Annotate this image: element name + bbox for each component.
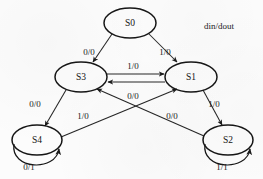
- edge-label-s4-s4: 0/1: [23, 162, 35, 172]
- state-diagram: S0 S3 S1 S4 S2 0/0 1/0 1/0 0/0 0/0 1/0 1…: [0, 0, 263, 179]
- edge-label-s2-s3: 0/0: [166, 111, 178, 121]
- edge-s2-s3: [97, 89, 204, 136]
- edge-label-s0-s1: 1/0: [159, 47, 171, 57]
- edge-s0-s3: [93, 34, 112, 62]
- state-label-s0: S0: [125, 18, 135, 28]
- edge-s3-s4: [45, 90, 66, 126]
- state-diagram-canvas: S0 S3 S1 S4 S2 0/0 1/0 1/0 0/0 0/0 1/0 1…: [0, 0, 263, 179]
- state-label-s2: S2: [223, 135, 233, 145]
- edge-label-s4-s1: 1/0: [77, 111, 89, 121]
- edge-label-s1-s2: 1/0: [208, 99, 220, 109]
- state-label-s3: S3: [76, 72, 86, 82]
- edge-label-s3-s4: 0/0: [29, 99, 41, 109]
- edge-labels-group: 0/0 1/0 1/0 0/0 0/0 1/0 1/0 0/0 0/1 1/1: [23, 47, 228, 172]
- io-legend: din/dout: [204, 21, 235, 31]
- edge-label-s0-s3: 0/0: [83, 47, 95, 57]
- edge-label-s3-s1: 1/0: [127, 61, 139, 71]
- edge-label-s1-s3: 0/0: [127, 91, 139, 101]
- state-label-s1: S1: [186, 72, 196, 82]
- edge-label-s2-s2: 1/1: [216, 162, 228, 172]
- state-label-s4: S4: [32, 135, 42, 145]
